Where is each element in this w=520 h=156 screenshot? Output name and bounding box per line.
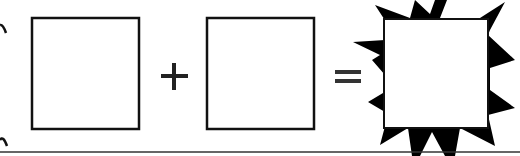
equals-sign-icon bbox=[335, 70, 361, 83]
equation-diagram bbox=[0, 0, 520, 156]
plus-sign-icon bbox=[161, 63, 188, 90]
left-edge-mark-top bbox=[0, 25, 6, 33]
operand-box-2 bbox=[207, 18, 314, 129]
left-edge-mark-bottom bbox=[0, 138, 7, 146]
result-box bbox=[384, 19, 488, 128]
operand-box-1 bbox=[32, 18, 139, 129]
